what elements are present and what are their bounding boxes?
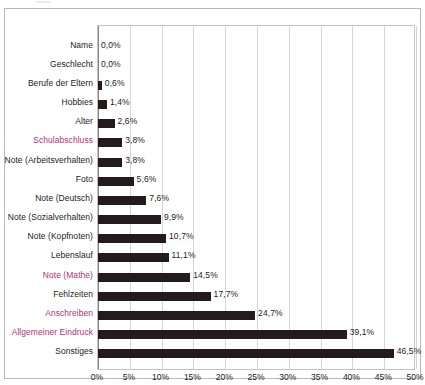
category-label: Note (Sozialverhalten) — [8, 212, 93, 222]
bar-row: 3,8% — [98, 133, 414, 152]
bar-row: 17,7% — [98, 287, 414, 306]
bar-row: 39,1% — [98, 325, 414, 344]
category-label: Hobbies — [61, 97, 93, 107]
category-label: Note (Arbeitsverhalten) — [4, 155, 93, 165]
category-label-row: Note (Kopfnoten) — [5, 228, 93, 247]
chart-figure-frame: NameGeschlechtBerufe der ElternHobbiesAl… — [4, 8, 421, 379]
x-tick-label: 0% — [91, 372, 103, 382]
bar-row: 14,5% — [98, 268, 414, 287]
x-tick-label: 20% — [216, 372, 233, 382]
category-label: Lebenslauf — [51, 250, 93, 260]
category-label-row: Note (Mathe) — [5, 267, 93, 286]
category-label: Berufe der Eltern — [28, 78, 93, 88]
category-label: Foto — [76, 174, 93, 184]
category-label: Note (Kopfnoten) — [27, 231, 93, 241]
bar-rows: 0,0%0,0%0,6%1,4%2,6%3,8%3,8%5,6%7,6%9,9%… — [98, 26, 414, 369]
bar — [98, 196, 146, 205]
bar — [98, 81, 102, 90]
category-label-row: Fehlzeiten — [5, 286, 93, 305]
category-label-row: Alter — [5, 113, 93, 132]
category-label-row: Sonstiges — [5, 343, 93, 362]
category-label-row: Berufe der Eltern — [5, 75, 93, 94]
category-label: Schulabschluss — [33, 135, 93, 145]
plot-area: 0,0%0,0%0,6%1,4%2,6%3,8%3,8%5,6%7,6%9,9%… — [97, 25, 415, 370]
bar-row: 46,5% — [98, 344, 414, 363]
x-tick-label: 35% — [311, 372, 328, 382]
bar — [98, 138, 122, 147]
category-label-row: Lebenslauf — [5, 247, 93, 266]
bar-row: 0,0% — [98, 38, 414, 57]
bar-value-label: 5,6% — [137, 174, 157, 184]
category-label-row: Note (Deutsch) — [5, 190, 93, 209]
bar-value-label: 10,7% — [169, 231, 194, 241]
category-label: Sonstiges — [55, 346, 93, 356]
bar-value-label: 2,6% — [118, 116, 138, 126]
bar-row: 1,4% — [98, 95, 414, 114]
bar-row: 2,6% — [98, 114, 414, 133]
bar — [98, 119, 115, 128]
category-label-row: Allgemeiner Eindruck — [5, 324, 93, 343]
bar-value-label: 0,0% — [101, 59, 121, 69]
bar-value-label: 39,1% — [350, 327, 375, 337]
bar-row: 10,7% — [98, 229, 414, 248]
category-label: Name — [70, 40, 93, 50]
bar — [98, 100, 107, 109]
bar-row: 7,6% — [98, 191, 414, 210]
x-axis-tick-labels: 0%5%10%15%20%25%30%35%40%45%50% — [97, 372, 415, 385]
bar — [98, 311, 255, 320]
category-label: Note (Deutsch) — [35, 193, 93, 203]
x-tick-label: 40% — [343, 372, 360, 382]
bar-value-label: 7,6% — [149, 193, 169, 203]
x-tick-label: 45% — [375, 372, 392, 382]
bar-value-label: 3,8% — [125, 155, 145, 165]
bar-value-label: 46,5% — [397, 346, 422, 356]
bar-value-label: 24,7% — [258, 308, 283, 318]
bar — [98, 158, 122, 167]
category-label-row: Foto — [5, 171, 93, 190]
category-label: Alter — [75, 116, 93, 126]
bar-row: 11,1% — [98, 248, 414, 267]
bar-value-label: 11,1% — [172, 250, 196, 260]
bar-value-label: 0,0% — [101, 40, 121, 50]
bar — [98, 330, 347, 339]
x-tick-label: 25% — [247, 372, 264, 382]
bar — [98, 273, 190, 282]
bar — [98, 177, 134, 186]
bar-value-label: 14,5% — [193, 270, 218, 280]
category-label-row: Geschlecht — [5, 56, 93, 75]
bar — [98, 292, 211, 301]
x-tick-label: 30% — [279, 372, 296, 382]
category-label-row: Note (Sozialverhalten) — [5, 209, 93, 228]
bar-row: 0,6% — [98, 76, 414, 95]
x-tick-label: 15% — [184, 372, 201, 382]
bar-row: 0,0% — [98, 57, 414, 76]
category-label-row: Note (Arbeitsverhalten) — [5, 152, 93, 171]
bar-row: 5,6% — [98, 172, 414, 191]
category-label-row: Schulabschluss — [5, 132, 93, 151]
x-tick-label: 10% — [152, 372, 169, 382]
bar — [98, 234, 166, 243]
category-label-row: Name — [5, 37, 93, 56]
bar-value-label: 3,8% — [125, 135, 145, 145]
scan-artifact — [36, 1, 50, 3]
bar-row: 3,8% — [98, 153, 414, 172]
category-label-row: Anschreiben — [5, 305, 93, 324]
bar-value-label: 17,7% — [214, 289, 239, 299]
bar-row: 9,9% — [98, 210, 414, 229]
bar — [98, 253, 169, 262]
bar-value-label: 9,9% — [164, 212, 184, 222]
bar-value-label: 0,6% — [105, 78, 125, 88]
bar — [98, 349, 394, 358]
x-tick-label: 50% — [406, 372, 423, 382]
bar-value-label: 1,4% — [110, 97, 130, 107]
bar-row: 24,7% — [98, 306, 414, 325]
category-label: Fehlzeiten — [53, 289, 93, 299]
category-axis-labels: NameGeschlechtBerufe der ElternHobbiesAl… — [5, 25, 93, 370]
category-label: Note (Mathe) — [43, 270, 93, 280]
x-tick-label: 5% — [123, 372, 135, 382]
category-label: Anschreiben — [45, 308, 93, 318]
category-label: Allgemeiner Eindruck — [12, 327, 93, 337]
bar — [98, 215, 161, 224]
category-label: Geschlecht — [50, 59, 93, 69]
category-label-row: Hobbies — [5, 94, 93, 113]
